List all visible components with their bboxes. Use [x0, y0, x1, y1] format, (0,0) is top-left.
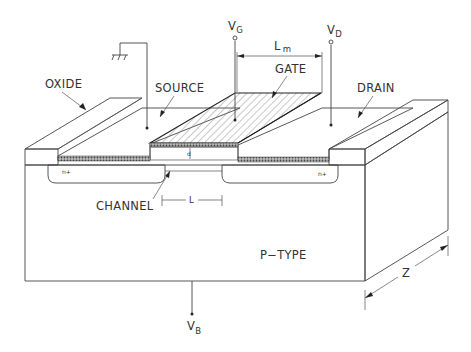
- vb-label: VB: [187, 319, 201, 336]
- n-plus-source-region: n+: [48, 165, 165, 183]
- source-label: SOURCE: [155, 81, 204, 95]
- oxide-thickness-label: d: [187, 150, 191, 157]
- n-plus-drain-region: n+: [222, 165, 338, 183]
- oxide-label: OXIDE: [45, 77, 82, 91]
- gate-oxide: d: [150, 143, 238, 160]
- oxide-label-group: OXIDE: [45, 77, 86, 110]
- lm-label: Lm: [274, 39, 291, 54]
- z-label: Z: [402, 266, 410, 280]
- n-plus-right-label: n+: [318, 170, 327, 177]
- source-ground-connection: [112, 43, 149, 130]
- gate-metal: [150, 93, 321, 143]
- channel-label: CHANNEL: [96, 199, 154, 213]
- gate-label: GATE: [275, 62, 306, 76]
- drain-label: DRAIN: [357, 81, 395, 95]
- vd-label: VD: [327, 23, 342, 39]
- channel-length-dimension: L: [162, 195, 222, 206]
- drain-terminal: VD: [327, 23, 342, 127]
- source-contact-layer: [58, 156, 150, 161]
- oxide-right: [329, 100, 448, 165]
- svg-text:L: L: [189, 195, 194, 205]
- drain-contact-layer: [238, 157, 329, 162]
- n-plus-left-label: n+: [62, 168, 71, 175]
- mosfet-diagram: d n+ n+ L OXIDE SOURCE GATE DRAIN: [0, 0, 471, 352]
- ground-icon: [112, 55, 128, 60]
- channel-label-group: CHANNEL: [96, 171, 170, 213]
- vg-label: VG: [228, 19, 243, 35]
- body-terminal: VB: [187, 281, 201, 336]
- drain-label-group: DRAIN: [357, 81, 395, 118]
- substrate-label: P−TYPE: [260, 248, 307, 262]
- source-label-group: SOURCE: [155, 81, 204, 117]
